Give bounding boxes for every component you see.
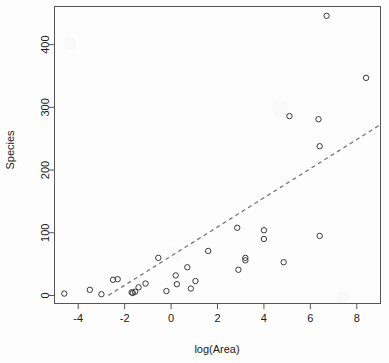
x-axis-title: log(Area) [194,343,239,355]
x-tick-label: -2 [120,312,130,324]
y-tick-label: 200 [39,161,51,179]
y-tick-label: 400 [39,35,51,53]
y-tick-label: 100 [39,224,51,242]
figure-background [0,0,389,363]
x-tick-label: 2 [214,312,220,324]
y-axis-title: Species [4,130,16,170]
chart-canvas: 0100200300400 -4-202468 log(Area) Specie… [0,0,389,363]
x-tick-label: 6 [307,312,313,324]
x-tick-label: 0 [168,312,174,324]
x-tick-label: -4 [73,312,83,324]
x-tick-label: 8 [354,312,360,324]
y-tick-label: 0 [39,292,51,298]
scatter-plot-figure: 0100200300400 -4-202468 log(Area) Specie… [0,0,389,363]
x-tick-label: 4 [261,312,267,324]
y-tick-label: 300 [39,98,51,116]
